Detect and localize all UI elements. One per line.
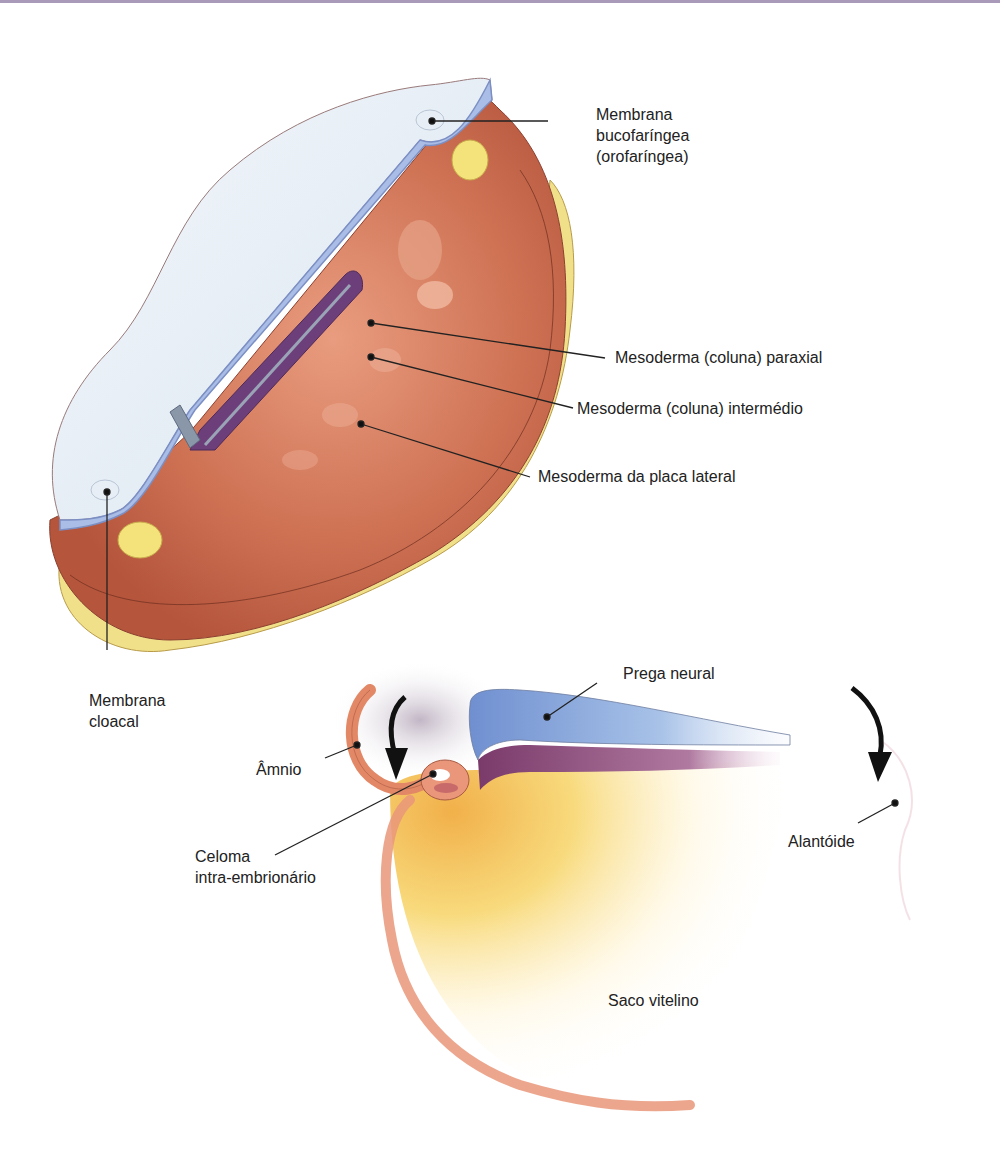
label-line: Membrana <box>596 104 689 125</box>
label-line: Membrana <box>89 690 165 711</box>
label-line: (orofaríngea) <box>596 146 689 167</box>
label-mesoderma-placa-lateral: Mesoderma da placa lateral <box>538 466 735 487</box>
label-mesoderma-intermedio: Mesoderma (coluna) intermédio <box>577 398 803 419</box>
label-celoma: Celoma intra-embrionário <box>195 846 316 888</box>
label-amnio: Âmnio <box>256 759 301 780</box>
label-membrana-bucofaringea: Membrana bucofaríngea (orofaríngea) <box>596 104 689 167</box>
label-saco-vitelino: Saco vitelino <box>608 990 699 1011</box>
label-line: intra-embrionário <box>195 867 316 888</box>
label-alantoide: Alantóide <box>788 831 855 852</box>
sagittal-section <box>330 660 912 1106</box>
label-prega-neural: Prega neural <box>623 663 715 684</box>
label-membrana-cloacal: Membrana cloacal <box>89 690 165 732</box>
label-line: bucofaríngea <box>596 125 689 146</box>
embryo-illustration <box>0 0 1004 1165</box>
label-line: Celoma <box>195 846 316 867</box>
label-line: cloacal <box>89 711 165 732</box>
label-mesoderma-paraxial: Mesoderma (coluna) paraxial <box>615 347 822 368</box>
trilaminar-embryo <box>50 78 574 651</box>
